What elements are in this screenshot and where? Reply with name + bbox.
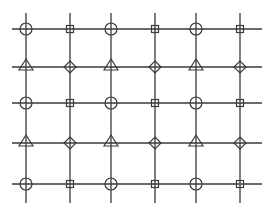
grid-lines — [12, 13, 262, 203]
symbol-grid-diagram — [0, 0, 272, 213]
grid-symbols — [19, 23, 246, 190]
